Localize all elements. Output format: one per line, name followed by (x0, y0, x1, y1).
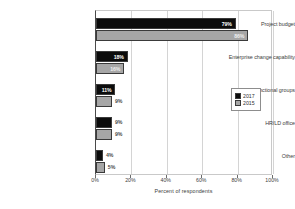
bar-group: 9%9% (96, 113, 271, 146)
legend-label: 2015 (243, 100, 255, 106)
legend-swatch (235, 100, 241, 106)
bar-2017: 18% (96, 51, 128, 62)
bar-group: 4%5% (96, 146, 271, 179)
category-label: Enterprise change capability (203, 54, 295, 60)
legend-entry: 2015 (235, 100, 255, 106)
legend-entry: 2017 (235, 93, 255, 99)
bar-value-label: 5% (108, 162, 115, 173)
bar-value-label: 9% (115, 117, 122, 128)
bar-group: 79%86% (96, 14, 271, 47)
bar-chart: 79%86%18%16%11%9%9%9%4%5% Project budget… (0, 0, 295, 209)
legend-label: 2017 (243, 93, 255, 99)
category-label: HR/LD office (203, 120, 295, 126)
bar-value-label: 9% (115, 96, 122, 107)
x-axis-title: Percent of respondents (95, 188, 272, 194)
bar-2017 (96, 117, 112, 128)
bar-2015 (96, 96, 112, 107)
category-label: Other (203, 153, 295, 159)
bar-value-label: 18% (114, 52, 124, 63)
x-tick-label: 100% (265, 177, 278, 183)
bar-value-label: 86% (234, 31, 244, 42)
x-tick-label: 20% (125, 177, 135, 183)
bar-value-label: 4% (106, 150, 113, 161)
x-tick-label: 0% (91, 177, 99, 183)
x-tick-label: 40% (161, 177, 171, 183)
legend: 20172015 (231, 88, 261, 111)
bar-group: 18%16% (96, 47, 271, 80)
bar-2015 (96, 129, 112, 140)
bar-value-label: 9% (115, 129, 122, 140)
x-tick-label: 80% (231, 177, 241, 183)
bar-value-label: 16% (110, 64, 120, 75)
category-label: Project budget (203, 21, 295, 27)
bar-value-label: 11% (102, 85, 112, 96)
bar-2017: 11% (96, 84, 115, 95)
legend-swatch (235, 93, 241, 99)
x-tick-label: 60% (196, 177, 206, 183)
bar-2015 (96, 162, 105, 173)
bar-2017 (96, 150, 103, 161)
bar-2015: 16% (96, 63, 124, 74)
bar-2015: 86% (96, 30, 248, 41)
